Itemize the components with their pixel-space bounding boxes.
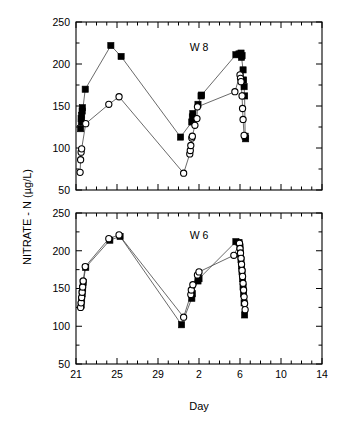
data-point-filled-square [177, 134, 183, 140]
data-point-open-circle [188, 142, 194, 148]
data-point-filled-square [108, 42, 114, 48]
y-tick-label: 250 [52, 207, 70, 219]
y-tick-label: 50 [58, 184, 70, 196]
x-tick-label: 2 [196, 368, 202, 380]
data-point-filled-square [198, 92, 204, 98]
data-point-open-circle [232, 89, 238, 95]
data-point-open-circle [83, 121, 89, 127]
y-tick-label: 250 [52, 16, 70, 28]
data-point-open-circle [82, 264, 88, 270]
data-point-open-circle [181, 170, 187, 176]
data-point-open-circle [239, 273, 245, 279]
x-tick-label: 21 [70, 368, 82, 380]
data-point-open-circle [239, 93, 245, 99]
data-point-open-circle [80, 284, 86, 290]
data-point-filled-square [238, 54, 244, 60]
data-point-open-circle [192, 122, 198, 128]
x-axis-title: Day [189, 400, 209, 412]
data-point-open-circle [238, 255, 244, 261]
data-point-open-circle [240, 287, 246, 293]
data-point-open-circle [239, 267, 245, 273]
data-point-open-circle [240, 280, 246, 286]
data-point-open-circle [78, 157, 84, 163]
data-point-open-circle [80, 278, 86, 284]
x-tick-label: 29 [152, 368, 164, 380]
x-tick-label: 6 [237, 368, 243, 380]
y-tick-label: 200 [52, 58, 70, 70]
data-point-open-circle [241, 294, 247, 300]
y-tick-label: 150 [52, 282, 70, 294]
data-point-open-circle [240, 116, 246, 122]
data-point-open-circle [116, 94, 122, 100]
data-point-open-circle [242, 307, 248, 313]
data-point-open-circle [239, 105, 245, 111]
data-point-filled-square [178, 322, 184, 328]
x-tick-label: 10 [275, 368, 287, 380]
y-tick-label: 50 [58, 358, 70, 370]
y-tick-label: 100 [52, 320, 70, 332]
data-point-open-circle [196, 269, 202, 275]
data-point-open-circle [106, 236, 112, 242]
data-point-open-circle [194, 104, 200, 110]
x-tick-label: 25 [111, 368, 123, 380]
data-point-filled-square [79, 105, 85, 111]
panel-title-top: W 8 [190, 41, 209, 53]
data-point-open-circle [231, 252, 237, 258]
nitrate-timeseries-figure: 50100150200250W 8 5010015020025021252926… [0, 0, 345, 435]
data-point-open-circle [79, 146, 85, 152]
data-point-open-circle [241, 132, 247, 138]
figure-container: 50100150200250W 8 5010015020025021252926… [0, 0, 345, 435]
data-point-filled-square [118, 53, 124, 59]
data-point-filled-square [78, 126, 84, 132]
data-point-open-circle [106, 101, 112, 107]
y-tick-label: 150 [52, 100, 70, 112]
panel-title-bottom: W 6 [190, 229, 209, 241]
data-point-open-circle [190, 282, 196, 288]
data-point-open-circle [238, 261, 244, 267]
data-point-open-circle [189, 133, 195, 139]
data-point-open-circle [77, 169, 83, 175]
data-point-open-circle [238, 79, 244, 85]
y-tick-label: 100 [52, 142, 70, 154]
data-point-open-circle [242, 301, 248, 307]
data-point-open-circle [116, 232, 122, 238]
y-axis-title: NITRATE - N (µg/L) [21, 169, 33, 265]
x-tick-label: 14 [316, 368, 328, 380]
data-point-filled-square [82, 86, 88, 92]
data-point-open-circle [181, 314, 187, 320]
data-point-open-circle [194, 116, 200, 122]
y-tick-label: 200 [52, 245, 70, 257]
